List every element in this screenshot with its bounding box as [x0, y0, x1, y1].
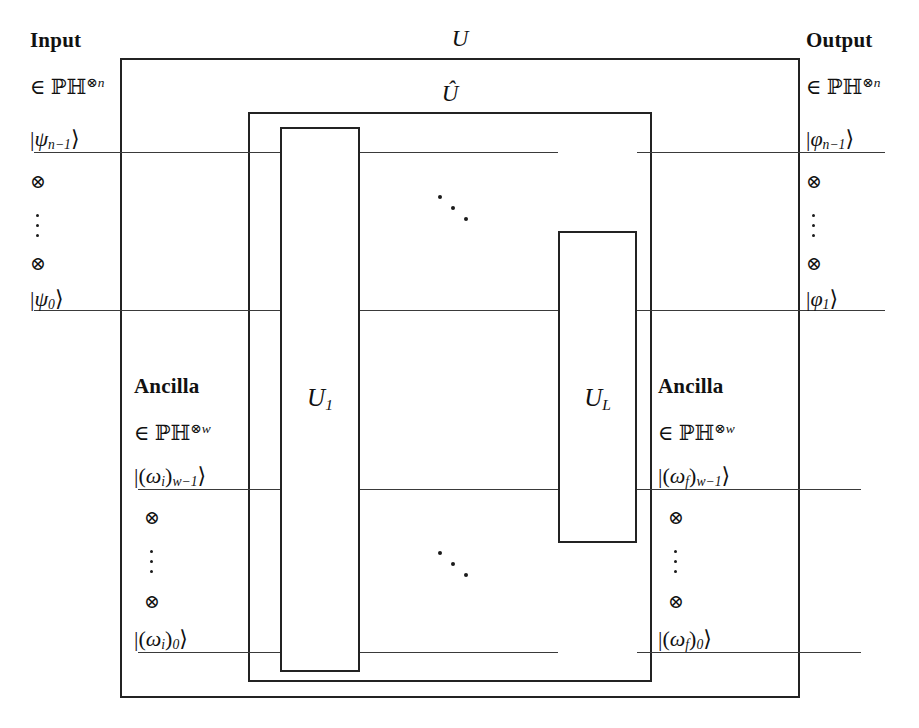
ancilla-out-ket-bottom-angle: ⟩ [703, 626, 712, 651]
output-heading: Output [806, 30, 873, 51]
wire-bottom-right-segment [637, 310, 885, 311]
ancilla-out-ket-top-bar: |( [658, 463, 670, 488]
ancilla-in-ket-top-sub: w−1 [172, 474, 197, 489]
output-ket-bottom: |φ1⟩ [806, 288, 838, 312]
output-ket-bottom-symbol: φ [810, 286, 822, 311]
output-hilbert-space: ∈ ℙℍ⊗n [806, 76, 880, 98]
diagonal-ellipsis-upper [438, 195, 480, 227]
ancilla-in-ket-top: |(ωi)w−1⟩ [134, 465, 206, 489]
ancilla-out-tensor-top: ⊗ [668, 508, 684, 527]
ancilla-in-vertical-ellipsis [150, 543, 153, 580]
ancilla-out-heading: Ancilla [658, 376, 724, 397]
ancilla-in-ket-bottom-symbol: ω [146, 626, 162, 651]
ancilla-in-heading: Ancilla [134, 376, 200, 397]
ancilla-in-tensor-top: ⊗ [144, 508, 160, 527]
gate-label-UL-sub: L [602, 396, 611, 413]
input-membership-symbol: ∈ [30, 75, 46, 99]
ancilla-in-hilbert-space: ∈ ℙℍ⊗w [134, 422, 211, 444]
input-hilbert-space: ∈ ℙℍ⊗n [30, 76, 104, 98]
gate-label-U1-base: U [307, 384, 325, 411]
ancilla-out-ket-top-angle: ⟩ [722, 463, 731, 488]
output-hilbert-exponent: ⊗n [862, 75, 880, 90]
ancilla-in-ket-top-symbol: ω [146, 463, 162, 488]
input-ket-top-symbol: ψ [34, 126, 48, 151]
gate-label-U1-sub: 1 [325, 396, 333, 413]
ancilla-out-hilbert-symbol: ℙℍ [679, 421, 715, 445]
output-ket-top-symbol: φ [810, 126, 822, 151]
ancilla-in-ket-bottom-bar: |( [134, 626, 146, 651]
input-hilbert-exponent: ⊗n [86, 75, 104, 90]
output-tensor-bottom: ⊗ [806, 254, 822, 273]
ancilla-in-ket-top-angle: ⟩ [198, 463, 207, 488]
output-tensor-top: ⊗ [806, 172, 822, 191]
diagonal-ellipsis-lower [438, 551, 480, 583]
wire-top-right-segment [637, 152, 885, 153]
ancilla-in-tensor-bottom: ⊗ [144, 592, 160, 611]
output-ket-top-sub: n−1 [823, 137, 846, 152]
ancilla-in-membership-symbol: ∈ [134, 421, 150, 445]
gate-label-UL: UL [558, 385, 637, 412]
input-ket-top-sub: n−1 [48, 137, 71, 152]
input-ket-bottom: |ψ0⟩ [30, 288, 63, 312]
input-ket-bottom-angle: ⟩ [55, 286, 64, 311]
output-membership-symbol: ∈ [806, 75, 822, 99]
gate-label-U1: U1 [280, 385, 360, 412]
ancilla-out-ket-top: |(ωf)w−1⟩ [658, 465, 730, 489]
output-ket-bottom-angle: ⟩ [829, 286, 838, 311]
input-ket-top-angle: ⟩ [71, 126, 80, 151]
input-hilbert-symbol: ℙℍ [51, 75, 87, 99]
input-tensor-top: ⊗ [30, 172, 46, 191]
ancilla-in-ket-bottom: |(ωi)0⟩ [134, 628, 188, 652]
ancilla-out-hilbert-exponent: ⊗w [714, 421, 734, 436]
circuit-diagram-canvas: U Û U1 UL Input ∈ ℙℍ⊗n |ψn−1⟩ ⊗ ⊗ |ψ0⟩ O… [0, 0, 919, 728]
ancilla-out-ket-top-symbol: ω [670, 463, 686, 488]
ancilla-out-ket-bottom-symbol: ω [670, 626, 686, 651]
input-heading: Input [30, 30, 81, 51]
wire-bottom-left-segment [34, 310, 280, 311]
ancilla-in-ket-bottom-angle: ⟩ [179, 626, 188, 651]
ancilla-out-ket-bottom-bar: |( [658, 626, 670, 651]
wire-bottom-middle-segment [360, 310, 558, 311]
input-ket-bottom-symbol: ψ [34, 286, 48, 311]
ancilla-out-hilbert-space: ∈ ℙℍ⊗w [658, 422, 735, 444]
wire-ancilla-top-middle-segment [360, 489, 558, 490]
ancilla-out-tensor-bottom: ⊗ [668, 592, 684, 611]
input-tensor-bottom: ⊗ [30, 254, 46, 273]
ancilla-in-hilbert-exponent: ⊗w [190, 421, 210, 436]
gate-label-UL-base: U [584, 384, 602, 411]
wire-top-middle-segment [360, 152, 558, 153]
output-ket-top-angle: ⟩ [845, 126, 854, 151]
wire-ancilla-bottom-right-segment [637, 652, 861, 653]
ancilla-out-vertical-ellipsis [674, 543, 677, 580]
input-vertical-ellipsis [36, 207, 39, 244]
ancilla-in-ket-top-bar: |( [134, 463, 146, 488]
ancilla-out-membership-symbol: ∈ [658, 421, 674, 445]
input-ket-bottom-sub: 0 [48, 297, 55, 312]
label-U-hat: Û [248, 82, 652, 105]
label-U: U [120, 27, 800, 50]
output-ket-top: |φn−1⟩ [806, 128, 854, 152]
wire-ancilla-top-left-segment [138, 489, 280, 490]
wire-ancilla-bottom-middle-segment [360, 652, 558, 653]
output-vertical-ellipsis [812, 207, 815, 244]
output-hilbert-symbol: ℙℍ [827, 75, 863, 99]
ancilla-out-ket-top-sub: w−1 [696, 474, 721, 489]
ancilla-in-hilbert-symbol: ℙℍ [155, 421, 191, 445]
input-ket-top: |ψn−1⟩ [30, 128, 80, 152]
ancilla-out-ket-bottom: |(ωf)0⟩ [658, 628, 712, 652]
wire-ancilla-bottom-left-segment [138, 652, 280, 653]
wire-ancilla-top-right-segment [637, 489, 861, 490]
